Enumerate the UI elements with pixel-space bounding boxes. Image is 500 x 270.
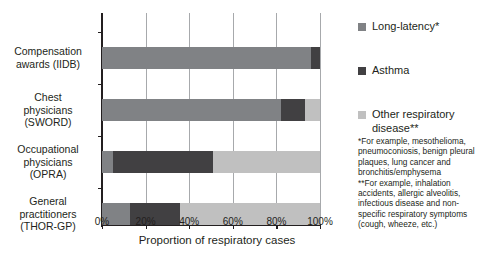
x-tick-label-0: 0% <box>95 216 109 227</box>
legend-label: Long-latency* <box>372 20 439 34</box>
legend-swatch-icon <box>358 111 366 119</box>
legend-swatch-icon <box>358 67 366 75</box>
legend-item-other-respiratory-disease[interactable]: Other respiratory disease** <box>358 108 498 135</box>
footnote-line: (cough, wheeze, etc.) <box>358 219 498 229</box>
respiratory-cases-stacked-bar-chart: Compensation awards (IIDB) Chest physici… <box>0 0 500 270</box>
y-label-line: Compensation <box>14 45 82 57</box>
x-tick-label-60: 60% <box>223 216 243 227</box>
footnote-line: infectious disease and non- <box>358 198 498 208</box>
y-label-line: practitioners <box>19 208 76 220</box>
bar-segment-other-respiratory-disease[interactable] <box>305 99 320 121</box>
y-axis-label-sword: Chest physicians (SWORD) <box>0 91 96 129</box>
legend-swatch-icon <box>358 23 366 31</box>
y-label-line: (SWORD) <box>24 116 71 128</box>
y-label-line: (THOR-GP) <box>20 220 75 232</box>
y-axis-label-thorgp: General practitioners (THOR-GP) <box>0 195 96 233</box>
legend-item-asthma[interactable]: Asthma <box>358 64 409 78</box>
y-label-line: (OPRA) <box>30 168 67 180</box>
footnote-line: specific respiratory symptoms <box>358 209 498 219</box>
bar-segment-long-latency[interactable] <box>102 47 311 69</box>
y-axis-label-iidb: Compensation awards (IIDB) <box>0 45 96 70</box>
x-tick-label-40: 40% <box>179 216 199 227</box>
gridline-100 <box>320 13 321 224</box>
bar-segment-asthma[interactable] <box>311 47 320 69</box>
bar-segment-asthma[interactable] <box>281 99 305 121</box>
legend-item-long-latency[interactable]: Long-latency* <box>358 20 439 34</box>
legend-label: Other respiratory disease** <box>372 108 498 135</box>
bar-segment-asthma[interactable] <box>113 151 213 173</box>
y-label-line: physicians <box>23 104 72 116</box>
footnote-line: pneumoconiosis, benign pleural <box>358 146 498 156</box>
footnote-line: **For example, inhalation <box>358 178 498 188</box>
footnote-line: bronchitis/emphysema <box>358 167 498 177</box>
bar-segment-long-latency[interactable] <box>102 151 113 173</box>
footnotes: *For example, mesothelioma, pneumoconios… <box>358 136 498 230</box>
bar-row-occupational-physicians-opra <box>102 151 320 173</box>
footnote-line: plaques, lung cancer and <box>358 157 498 167</box>
y-tick-2 <box>98 136 102 137</box>
bar-segment-other-respiratory-disease[interactable] <box>180 203 320 225</box>
bar-segment-long-latency[interactable] <box>102 99 281 121</box>
bar-row-chest-physicians-sword <box>102 99 320 121</box>
y-label-line: Occupational <box>17 143 78 155</box>
y-label-line: awards (IIDB) <box>16 58 80 70</box>
plot-area <box>102 16 320 224</box>
legend-label: Asthma <box>372 64 409 78</box>
bar-row-compensation-awards-iidb <box>102 47 320 69</box>
y-label-line: physicians <box>23 156 72 168</box>
x-tick-label-20: 20% <box>136 216 156 227</box>
y-axis-category-labels: Compensation awards (IIDB) Chest physici… <box>0 16 96 224</box>
y-axis-label-opra: Occupational physicians (OPRA) <box>0 143 96 181</box>
x-tick-label-100: 100% <box>307 216 333 227</box>
y-tick-3 <box>98 188 102 189</box>
x-axis-title: Proportion of respiratory cases <box>102 234 332 246</box>
footnote-line: accidents, allergic alveolitis, <box>358 188 498 198</box>
bar-segment-other-respiratory-disease[interactable] <box>213 151 320 173</box>
footnote-line: *For example, mesothelioma, <box>358 136 498 146</box>
y-label-line: General <box>29 195 66 207</box>
y-tick-1 <box>98 84 102 85</box>
x-tick-label-80: 80% <box>266 216 286 227</box>
y-label-line: Chest <box>34 91 61 103</box>
y-tick-0 <box>98 32 102 33</box>
